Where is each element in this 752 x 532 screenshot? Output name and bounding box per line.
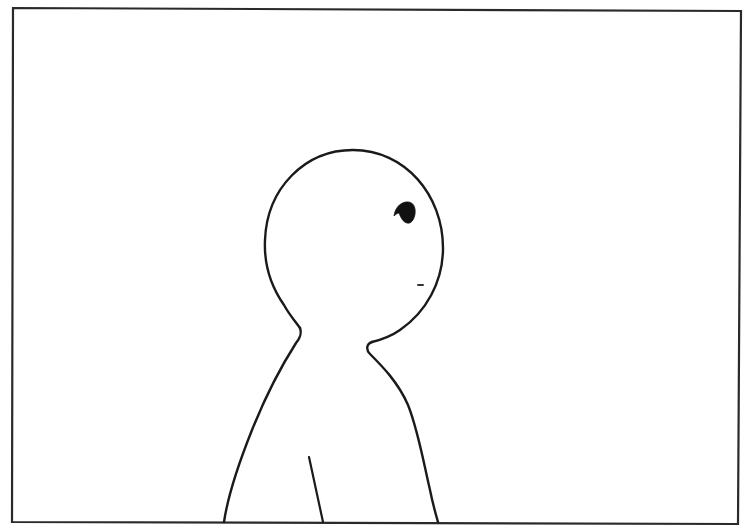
panel-frame bbox=[12, 8, 741, 524]
comic-panel bbox=[0, 0, 752, 532]
panel-drawing bbox=[0, 0, 752, 532]
